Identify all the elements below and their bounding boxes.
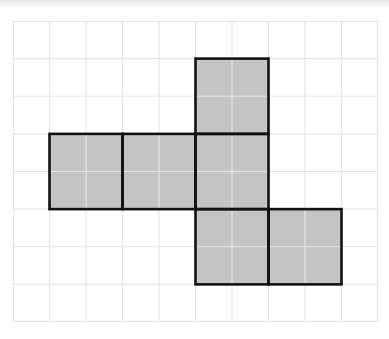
cube-net-diagram xyxy=(13,21,378,322)
cropped-text-artifact xyxy=(0,0,389,8)
grid-paper xyxy=(13,21,378,322)
